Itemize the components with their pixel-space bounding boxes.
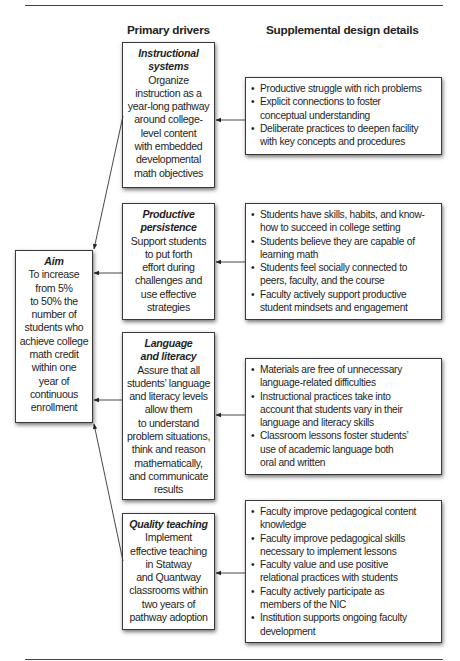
bullet-icon: • <box>251 208 254 221</box>
bullet-icon: • <box>251 235 254 248</box>
driver-box-productive-persistence: Productive persistence Support students … <box>122 203 215 320</box>
driver-text: Organize instruction as a year-long path… <box>123 74 214 180</box>
top-rule <box>25 5 443 6</box>
arrow-instructional-systems-to-aim <box>94 116 123 249</box>
detail-item: •Students have skills, habits, and know-… <box>246 208 441 235</box>
driver-box-language-and-literacy: Language and literacy Assure that all st… <box>122 332 215 500</box>
details-box-instructional-systems: •Productive struggle with rich problems … <box>245 77 442 155</box>
detail-item: •Faculty actively participate as members… <box>246 585 441 612</box>
details-box-productive-persistence: •Students have skills, habits, and know-… <box>245 203 442 320</box>
detail-item: •Productive struggle with rich problems <box>246 82 441 95</box>
detail-item: •Faculty value and use positive relation… <box>246 558 441 585</box>
detail-item: •Faculty improve pedagogical skills nece… <box>246 532 441 559</box>
arrow-quality-teaching-to-aim <box>94 424 123 561</box>
details-list: •Productive struggle with rich problems … <box>246 82 441 148</box>
driver-text: Support students to put forth effort dur… <box>123 235 214 315</box>
bullet-icon: • <box>251 611 254 624</box>
detail-item: •Materials are free of unnecessary langu… <box>246 363 441 390</box>
details-list: •Students have skills, habits, and know-… <box>246 208 441 314</box>
detail-item: •Faculty improve pedagogical content kno… <box>246 505 441 532</box>
detail-item: •Faculty actively support productive stu… <box>246 288 441 315</box>
driver-box-instructional-systems: Instructional systems Organize instructi… <box>122 42 215 188</box>
details-list: •Faculty improve pedagogical content kno… <box>246 505 441 638</box>
detail-item: •Students feel socially connected to pee… <box>246 261 441 288</box>
bullet-icon: • <box>251 429 254 442</box>
detail-item: •Deliberate practices to deepen facility… <box>246 122 441 149</box>
bullet-icon: • <box>251 505 254 518</box>
driver-title: Productive persistence <box>123 208 214 235</box>
detail-item: •Students believe they are capable of le… <box>246 235 441 262</box>
primary-drivers-heading: Primary drivers <box>127 23 210 37</box>
driver-text: Implement effective teaching in Statway … <box>123 531 214 624</box>
detail-item: •Classroom lessons foster students’ use … <box>246 429 441 469</box>
details-box-language-and-literacy: •Materials are free of unnecessary langu… <box>245 358 442 475</box>
bullet-icon: • <box>251 585 254 598</box>
driver-text: Assure that all students’ language and l… <box>123 364 214 497</box>
bullet-icon: • <box>251 95 254 108</box>
detail-item: •Instructional practices take into accou… <box>246 390 441 430</box>
bullet-icon: • <box>251 363 254 376</box>
details-list: •Materials are free of unnecessary langu… <box>246 363 441 469</box>
supplemental-details-heading: Supplemental design details <box>266 23 419 37</box>
aim-text: To increase from 5% to 50% the number of… <box>16 268 92 414</box>
aim-box: Aim To increase from 5% to 50% the numbe… <box>15 250 93 423</box>
driver-title: Quality teaching <box>123 518 214 531</box>
bullet-icon: • <box>251 532 254 545</box>
detail-item: •Institution supports ongoing faculty de… <box>246 611 441 638</box>
bullet-icon: • <box>251 82 254 95</box>
driver-title: Language and literacy <box>123 337 214 364</box>
bullet-icon: • <box>251 261 254 274</box>
bullet-icon: • <box>251 122 254 135</box>
bullet-icon: • <box>251 558 254 571</box>
driver-title: Instructional systems <box>123 47 214 74</box>
driver-box-quality-teaching: Quality teaching Implement effective tea… <box>122 513 215 630</box>
bullet-icon: • <box>251 390 254 403</box>
detail-item: •Explicit connections to foster conceptu… <box>246 95 441 122</box>
bottom-rule <box>25 659 443 660</box>
aim-title: Aim <box>16 255 92 268</box>
bullet-icon: • <box>251 288 254 301</box>
details-box-quality-teaching: •Faculty improve pedagogical content kno… <box>245 500 442 643</box>
